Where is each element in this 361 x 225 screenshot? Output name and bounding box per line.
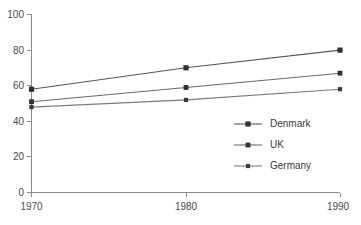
legend-label-uk: UK (270, 139, 284, 150)
y-tick-label-100: 100 (7, 9, 24, 20)
data-point-denmark-1980 (183, 65, 188, 70)
chart-canvas: 100 80 60 40 20 0 1970 1980 1990 (0, 0, 361, 225)
line-chart: 100 80 60 40 20 0 1970 1980 1990 (0, 0, 361, 225)
legend-marker-germany (246, 164, 250, 168)
y-tick-label-40: 40 (13, 116, 25, 127)
x-tick-label-1980: 1980 (175, 201, 198, 212)
chart-background (0, 0, 361, 225)
data-point-uk-1970 (29, 99, 34, 104)
legend-marker-denmark (245, 121, 250, 126)
y-tick-label-20: 20 (13, 151, 25, 162)
y-tick-label-0: 0 (18, 187, 24, 198)
data-point-denmark-1970 (29, 87, 34, 92)
x-tick-label-1970: 1970 (20, 201, 43, 212)
data-point-germany-1970 (29, 105, 33, 109)
data-point-uk-1980 (184, 85, 189, 90)
x-tick-label-1990: 1990 (327, 201, 350, 212)
y-tick-label-80: 80 (13, 45, 25, 56)
legend-marker-uk (246, 143, 251, 148)
data-point-uk-1990 (338, 71, 343, 76)
data-point-denmark-1990 (337, 48, 342, 53)
data-point-germany-1990 (338, 87, 342, 91)
data-point-germany-1980 (184, 98, 188, 102)
legend-label-denmark: Denmark (270, 118, 312, 129)
y-tick-label-60: 60 (13, 80, 25, 91)
legend-label-germany: Germany (270, 160, 311, 171)
